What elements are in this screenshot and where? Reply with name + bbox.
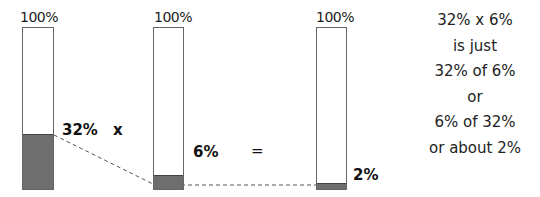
dashed-connector-1 bbox=[54, 135, 153, 184]
bar1-100-percent bbox=[22, 27, 54, 190]
explanation-line-6: or about 2% bbox=[415, 136, 535, 162]
bar2-fill bbox=[154, 175, 183, 189]
bar3-top-label: 100% bbox=[316, 9, 354, 25]
bar2-100-percent bbox=[153, 27, 184, 190]
explanation-text: 32% x 6% is just 32% of 6% or 6% of 32% … bbox=[415, 8, 535, 161]
bar1-fill bbox=[23, 134, 53, 189]
bar2-top-label: 100% bbox=[154, 9, 192, 25]
explanation-line-1: 32% x 6% bbox=[415, 8, 535, 34]
bar3-fill bbox=[317, 183, 346, 189]
bar1-value-label: 32% bbox=[62, 121, 98, 139]
bar3-100-percent bbox=[316, 27, 347, 190]
equals-operator: = bbox=[251, 142, 264, 160]
bar3-value-label: 2% bbox=[353, 166, 378, 184]
explanation-line-5: 6% of 32% bbox=[415, 110, 535, 136]
bar1-top-label: 100% bbox=[20, 9, 58, 25]
explanation-line-4: or bbox=[415, 85, 535, 111]
bar2-value-label: 6% bbox=[193, 143, 218, 161]
multiply-operator: x bbox=[113, 121, 123, 139]
explanation-line-2: is just bbox=[415, 34, 535, 60]
explanation-line-3: 32% of 6% bbox=[415, 59, 535, 85]
